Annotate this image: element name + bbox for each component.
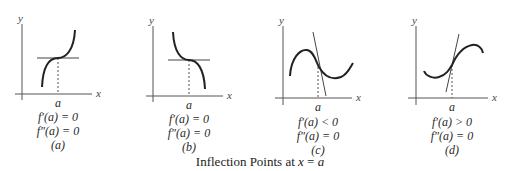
x-axis-label: x: [227, 89, 232, 101]
panel-tag: (a): [51, 139, 65, 151]
second-derivative-condition: f″(a) = 0: [168, 127, 210, 139]
panel-tag: (b): [182, 141, 196, 153]
y-axis-label: y: [18, 12, 23, 24]
x-axis-label: x: [492, 91, 497, 103]
panel-c-graph: [275, 26, 353, 105]
point-a-label: a: [55, 97, 61, 109]
y-axis-label: y: [149, 14, 154, 26]
point-a-label: a: [449, 101, 455, 113]
caption-prefix: Inflection Points at: [196, 154, 298, 169]
point-a-label: a: [186, 99, 192, 111]
point-a-label: a: [315, 101, 321, 113]
y-axis-label: y: [279, 14, 284, 26]
panel-b-graph: [146, 26, 223, 102]
inflection-figure: [0, 0, 506, 171]
y-axis-label: y: [412, 14, 417, 26]
second-derivative-condition: f″(a) = 0: [37, 125, 79, 137]
panel-a-graph: [15, 24, 92, 100]
panel-tag: (d): [445, 144, 459, 156]
second-derivative-condition: f″(a) = 0: [431, 130, 473, 142]
x-axis-label: x: [356, 91, 361, 103]
figure-caption: Inflection Points at x = a: [196, 154, 324, 170]
panel-d-graph: [408, 26, 488, 105]
x-axis-label: x: [96, 87, 101, 99]
first-derivative-condition: f′(a) < 0: [298, 116, 338, 128]
first-derivative-condition: f′(a) > 0: [432, 116, 472, 128]
caption-val: a: [318, 154, 325, 169]
curve: [424, 45, 483, 78]
first-derivative-condition: f′(a) = 0: [38, 111, 78, 123]
tangent-line: [313, 32, 326, 96]
first-derivative-condition: f′(a) = 0: [169, 113, 209, 125]
caption-eq: =: [304, 154, 318, 169]
second-derivative-condition: f″(a) = 0: [297, 130, 339, 142]
